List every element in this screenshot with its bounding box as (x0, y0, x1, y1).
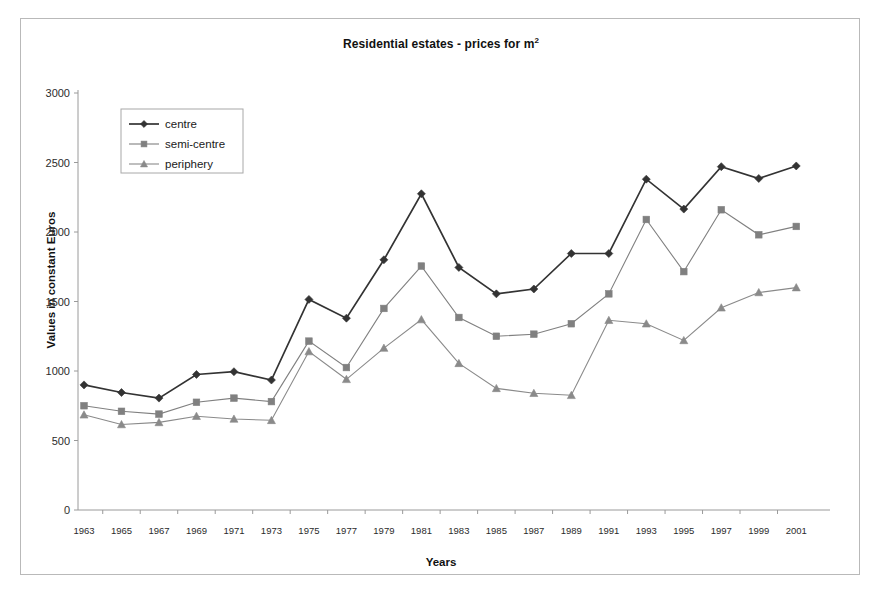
x-tick-label: 1991 (598, 525, 619, 536)
x-tick-label: 1987 (523, 525, 544, 536)
data-point-periphery (192, 412, 200, 419)
x-tick-label: 2001 (786, 525, 807, 536)
x-tick-label: 1965 (111, 525, 132, 536)
y-tick-label: 1000 (46, 365, 70, 377)
x-tick-label: 1989 (561, 525, 582, 536)
x-tick-label: 1979 (373, 525, 394, 536)
data-point-semi-centre (193, 399, 200, 406)
data-point-semi-centre (343, 364, 350, 371)
data-point-periphery (417, 316, 425, 323)
data-point-centre (305, 295, 313, 303)
data-point-semi-centre (568, 320, 575, 327)
x-axis: 1963196519671969197119731975197719791981… (65, 510, 830, 536)
data-point-periphery (380, 344, 388, 351)
y-tick-label: 3000 (46, 87, 70, 99)
x-tick-label: 1963 (73, 525, 94, 536)
data-point-centre (755, 174, 763, 182)
legend-marker-semi-centre (141, 141, 147, 147)
data-point-centre (155, 394, 163, 402)
data-point-periphery (492, 384, 500, 391)
x-tick-label: 1985 (486, 525, 507, 536)
data-point-centre (792, 162, 800, 170)
data-point-semi-centre (381, 305, 388, 312)
x-tick-label: 1983 (448, 525, 469, 536)
data-point-semi-centre (755, 231, 762, 238)
plot-area: 050010001500200025003000 196319651967196… (21, 19, 861, 576)
x-tick-label: 1981 (411, 525, 432, 536)
x-tick-label: 1975 (298, 525, 319, 536)
x-tick-label: 1967 (148, 525, 169, 536)
data-point-semi-centre (606, 291, 613, 298)
data-point-semi-centre (531, 331, 538, 338)
legend-label-centre[interactable]: centre (165, 118, 197, 130)
data-point-periphery (80, 411, 88, 418)
data-point-semi-centre (231, 395, 238, 402)
data-point-centre (605, 250, 613, 258)
x-tick-label: 1973 (261, 525, 282, 536)
data-point-semi-centre (493, 333, 500, 340)
x-tick-label: 1995 (673, 525, 694, 536)
data-point-periphery (717, 304, 725, 311)
chart-legend: centresemi-centreperiphery (121, 109, 243, 173)
y-tick-label: 2500 (46, 157, 70, 169)
x-tick-label: 1999 (748, 525, 769, 536)
x-tick-label: 1997 (711, 525, 732, 536)
data-point-centre (117, 389, 125, 397)
data-point-centre (80, 381, 88, 389)
legend-label-semi-centre[interactable]: semi-centre (165, 138, 225, 150)
data-point-semi-centre (268, 398, 275, 405)
series-line-semi-centre (84, 210, 796, 414)
x-tick-label: 1977 (336, 525, 357, 536)
data-point-semi-centre (793, 223, 800, 230)
data-point-semi-centre (643, 216, 650, 223)
x-tick-label: 1971 (223, 525, 244, 536)
x-tick-label: 1969 (186, 525, 207, 536)
data-point-semi-centre (81, 402, 88, 409)
data-point-centre (417, 190, 425, 198)
data-point-periphery (305, 348, 313, 355)
y-axis: 050010001500200025003000 (46, 87, 78, 516)
x-tick-label: 1993 (636, 525, 657, 536)
data-point-semi-centre (156, 411, 163, 418)
y-tick-label: 1500 (46, 296, 70, 308)
data-point-centre (267, 376, 275, 384)
data-point-semi-centre (680, 268, 687, 275)
data-point-semi-centre (456, 314, 463, 321)
data-point-periphery (792, 284, 800, 291)
series-line-centre (84, 166, 796, 398)
data-point-periphery (605, 316, 613, 323)
y-tick-label: 500 (52, 435, 70, 447)
data-point-semi-centre (306, 338, 313, 345)
chart-frame: Residential estates - prices for m2 Valu… (20, 18, 860, 575)
data-point-semi-centre (418, 263, 425, 270)
data-point-centre (230, 368, 238, 376)
legend-label-periphery[interactable]: periphery (165, 158, 213, 170)
data-point-semi-centre (118, 408, 125, 415)
data-point-semi-centre (718, 206, 725, 213)
series-lines (80, 162, 800, 428)
y-tick-label: 2000 (46, 226, 70, 238)
